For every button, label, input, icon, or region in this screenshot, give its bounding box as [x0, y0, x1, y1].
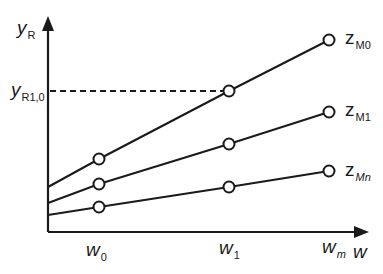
marker-circle-icon [94, 179, 105, 190]
marker-circle-icon [94, 154, 105, 165]
line-zM1 [48, 112, 329, 203]
marker-circle-icon [224, 182, 235, 193]
x-axis-arrow-icon [354, 226, 369, 238]
line-label-zMn: zMn [345, 160, 371, 179]
markers [94, 35, 335, 213]
y-marker-label: yR1,0 [11, 80, 45, 99]
y-axis-arrow-icon [42, 16, 54, 31]
line-zM0 [48, 40, 329, 187]
x-axis-label: w [353, 242, 367, 261]
marker-circle-icon [224, 139, 235, 150]
y-axis-label: yR [17, 18, 35, 37]
x-tick-w0: w0 [86, 240, 107, 259]
diagram-canvas [0, 0, 383, 274]
x-tick-w1: w1 [219, 238, 240, 257]
axes [48, 30, 356, 232]
line-label-zM1: zM1 [345, 100, 371, 119]
line-label-zM0: zM0 [345, 28, 371, 47]
marker-circle-icon [324, 35, 335, 46]
marker-circle-icon [224, 86, 235, 97]
marker-circle-icon [94, 202, 105, 213]
line-zMn [48, 171, 329, 215]
marker-circle-icon [324, 107, 335, 118]
x-tick-wm: wm [322, 237, 346, 256]
marker-circle-icon [324, 166, 335, 177]
